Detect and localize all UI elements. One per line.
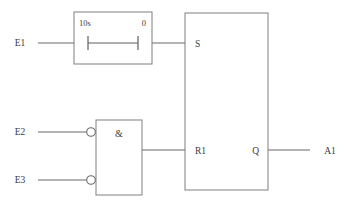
logic-diagram: E1 E2 E3 10s 0 & S R1 Q A1	[0, 0, 353, 207]
port-label-q: Q	[252, 146, 259, 156]
timer-right-label: 0	[142, 18, 146, 28]
inverter-bubble-e3	[87, 176, 96, 185]
timer-delay-symbol	[88, 36, 138, 50]
and-gate-symbol: &	[115, 128, 123, 139]
input-label-e3: E3	[15, 175, 26, 185]
diagram-canvas: E1 E2 E3 10s 0 & S R1 Q A1	[0, 0, 353, 207]
port-label-r1: R1	[195, 146, 206, 156]
input-label-e2: E2	[15, 127, 26, 137]
inverter-bubble-e2	[87, 128, 96, 137]
timer-left-label: 10s	[79, 18, 91, 28]
output-label-a1: A1	[324, 146, 336, 156]
input-label-e1: E1	[15, 38, 26, 48]
port-label-s: S	[195, 39, 200, 49]
